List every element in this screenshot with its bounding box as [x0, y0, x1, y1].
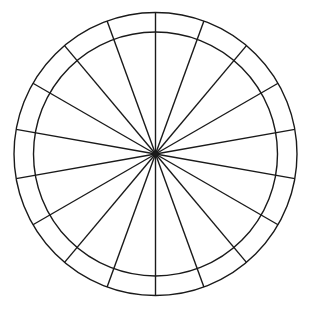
- spoke-line: [65, 154, 156, 262]
- spoke-line: [156, 46, 247, 154]
- spoke-line: [65, 46, 156, 154]
- spoke-line: [156, 154, 247, 262]
- spoke-line: [156, 154, 204, 287]
- spoke-line: [107, 21, 155, 154]
- spoke-line: [107, 154, 155, 287]
- wheel-diagram: [0, 0, 314, 312]
- spoke-line: [156, 21, 204, 154]
- center-hub: [153, 151, 159, 157]
